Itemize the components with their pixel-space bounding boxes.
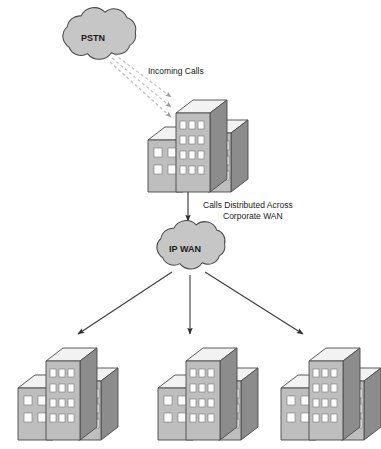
pstn-cloud-node[interactable]: PSTN bbox=[63, 8, 136, 60]
branch-arrow-left bbox=[78, 272, 172, 334]
calls-distributed-label-line2: Corporate WAN bbox=[223, 211, 283, 221]
building-icon bbox=[18, 348, 118, 440]
incoming-calls-label: Incoming Calls bbox=[148, 66, 204, 76]
ipwan-to-branches-arrows bbox=[78, 272, 303, 334]
branch-building-left[interactable] bbox=[18, 348, 118, 440]
building-icon bbox=[148, 100, 248, 192]
headquarters-building[interactable] bbox=[148, 100, 248, 192]
branch-building-right[interactable] bbox=[281, 348, 381, 440]
network-diagram-canvas: PSTN Incoming Calls Calls Distributed Ac… bbox=[0, 0, 381, 449]
ip-wan-cloud-node[interactable]: IP WAN bbox=[157, 221, 225, 269]
network-diagram-svg: PSTN Incoming Calls Calls Distributed Ac… bbox=[0, 0, 381, 449]
pstn-cloud-label: PSTN bbox=[81, 33, 105, 43]
building-icon bbox=[158, 348, 258, 440]
branch-arrow-right bbox=[205, 272, 303, 334]
calls-distributed-label-line1: Calls Distributed Across bbox=[203, 200, 293, 210]
branch-building-center[interactable] bbox=[158, 348, 258, 440]
pstn-to-headquarters-arrows bbox=[110, 54, 171, 117]
ip-wan-cloud-label: IP WAN bbox=[169, 244, 201, 254]
building-icon bbox=[281, 348, 381, 440]
